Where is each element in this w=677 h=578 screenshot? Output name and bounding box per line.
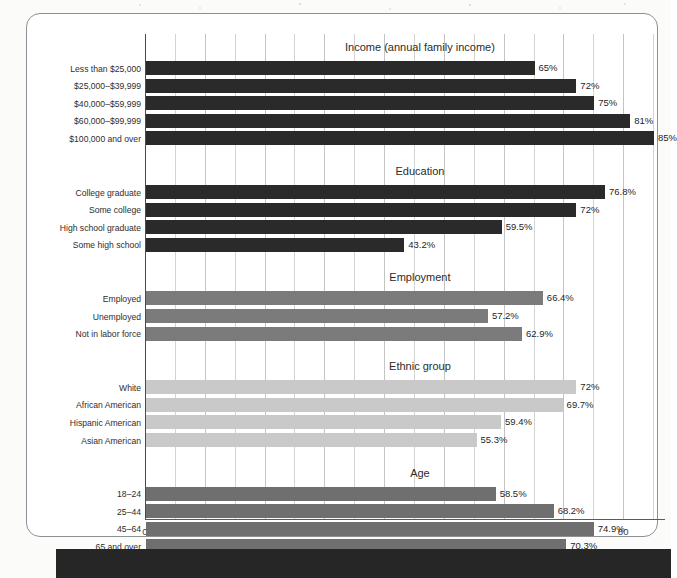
group-title: Education xyxy=(395,165,444,177)
bar-value-label: 81% xyxy=(634,114,653,128)
bar-value-label: 72% xyxy=(580,380,599,394)
bar-value-label: 75% xyxy=(598,96,617,110)
bar xyxy=(146,203,576,217)
bar xyxy=(146,309,488,323)
group-title: Employment xyxy=(389,271,450,283)
bar-value-label: 74.9% xyxy=(598,522,625,536)
bar-value-label: 59.5% xyxy=(506,220,533,234)
category-label: $40,000–$59,999 xyxy=(0,99,145,109)
bar xyxy=(146,433,477,447)
category-label: $25,000–$39,999 xyxy=(0,81,145,91)
bar-value-label: 72% xyxy=(580,203,599,217)
bar xyxy=(146,327,522,341)
category-label: African American xyxy=(0,400,145,410)
bar xyxy=(146,185,605,199)
category-label: $60,000–$99,999 xyxy=(0,116,145,126)
paper-speckle-texture xyxy=(0,0,671,14)
category-label: 18–24 xyxy=(0,489,145,499)
bottom-banner xyxy=(56,549,671,578)
bar-value-label: 69.7% xyxy=(567,398,594,412)
bar xyxy=(146,131,654,145)
bar-value-label: 58.5% xyxy=(500,487,527,501)
bar xyxy=(146,504,554,518)
bar-value-label: 43.2% xyxy=(408,238,435,252)
bar xyxy=(146,291,543,305)
bar xyxy=(146,61,535,75)
category-label: Not in labor force xyxy=(0,329,145,339)
bar-value-label: 62.9% xyxy=(526,327,553,341)
bar xyxy=(146,114,630,128)
category-label: High school graduate xyxy=(0,223,145,233)
bar xyxy=(146,96,594,110)
figure-card: 01020304050607080 Less than $25,000$25,0… xyxy=(26,13,658,537)
group-title: Ethnic group xyxy=(389,360,451,372)
bar-value-label: 66.4% xyxy=(547,291,574,305)
bar xyxy=(146,415,501,429)
bar xyxy=(146,79,576,93)
bar-value-label: 59.4% xyxy=(505,415,532,429)
bar xyxy=(146,238,404,252)
chart-plot-area: 01020304050607080 Less than $25,000$25,0… xyxy=(145,34,665,519)
bar-value-label: 72% xyxy=(580,79,599,93)
bar-value-label: 76.8% xyxy=(609,185,636,199)
bar-value-label: 65% xyxy=(539,61,558,75)
bar xyxy=(146,487,496,501)
category-label: Less than $25,000 xyxy=(0,64,145,74)
bar-value-label: 55.3% xyxy=(481,433,508,447)
category-label: 45–64 xyxy=(0,524,145,534)
category-label: 25–44 xyxy=(0,507,145,517)
category-label: College graduate xyxy=(0,188,145,198)
bar-value-label: 68.2% xyxy=(558,504,585,518)
category-label: Employed xyxy=(0,294,145,304)
bar xyxy=(146,220,502,234)
bar-value-label: 57.2% xyxy=(492,309,519,323)
category-label: Asian American xyxy=(0,436,145,446)
category-label: Some high school xyxy=(0,240,145,250)
group-title: Income (annual family income) xyxy=(345,41,495,53)
group-title: Age xyxy=(410,467,430,479)
category-label: Some college xyxy=(0,205,145,215)
category-label: Unemployed xyxy=(0,312,145,322)
bar xyxy=(146,380,576,394)
bar xyxy=(146,398,563,412)
category-label: White xyxy=(0,383,145,393)
category-label: $100,000 and over xyxy=(0,134,145,144)
gridline xyxy=(653,34,654,519)
bar-value-label: 85% xyxy=(658,131,677,145)
category-labels: Less than $25,000$25,000–$39,999$40,000–… xyxy=(0,34,145,519)
gridline xyxy=(623,34,624,519)
x-axis-line xyxy=(145,519,665,520)
category-label: Hispanic American xyxy=(0,418,145,428)
bar xyxy=(146,522,594,536)
